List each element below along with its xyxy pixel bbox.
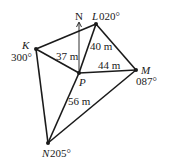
label-L: L	[91, 10, 98, 22]
point-P	[77, 71, 81, 75]
label-K: K	[21, 39, 30, 51]
point-M	[134, 68, 138, 72]
distance-PN: 56 m	[68, 95, 91, 107]
label-P: P	[78, 76, 86, 88]
north-label: N	[75, 10, 83, 22]
point-markers	[34, 22, 138, 145]
distance-PM: 44 m	[98, 59, 121, 71]
bearing-L: 020°	[99, 10, 120, 22]
point-N	[46, 141, 50, 145]
distance-PL: 40 m	[90, 40, 113, 52]
survey-diagram: N L 020° K 300° M 087° P N 205° 37 m 40 …	[0, 0, 172, 162]
edge-KL	[36, 24, 96, 49]
bearing-N: 205°	[50, 147, 71, 159]
outer-polygon	[36, 24, 136, 143]
bearing-K: 300°	[11, 51, 32, 63]
edge-NK	[36, 49, 48, 143]
radial-lines	[36, 24, 136, 143]
distance-PK: 37 m	[56, 50, 79, 62]
label-N: N	[41, 147, 50, 159]
point-L	[94, 22, 98, 26]
edge-MN	[48, 70, 136, 143]
point-K	[34, 47, 38, 51]
bearing-M: 087°	[136, 75, 157, 87]
line-PN	[48, 73, 79, 143]
